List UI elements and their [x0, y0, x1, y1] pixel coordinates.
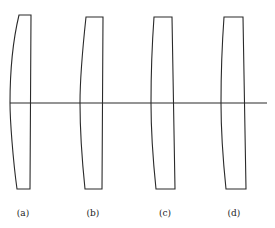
lens-profiles-diagram [0, 0, 275, 228]
panel-label-c: (c) [159, 208, 171, 218]
lens-profile-a [10, 15, 31, 189]
panel-label-a: (a) [17, 208, 29, 218]
panel-label-b: (b) [87, 208, 100, 218]
panel-label-d: (d) [228, 208, 241, 218]
